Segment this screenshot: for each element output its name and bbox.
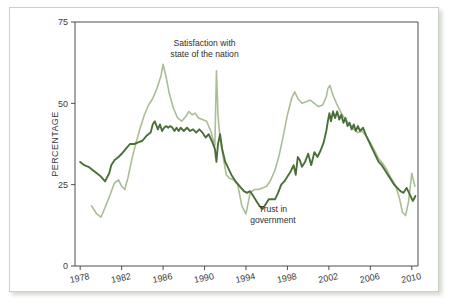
trust-label-line1: Trust in	[259, 204, 288, 214]
trust-label: Trust ingovernment	[250, 204, 296, 225]
x-tick-label-1998: 1998	[276, 271, 298, 285]
x-tick-label-2010: 2010	[400, 271, 422, 285]
x-tick-label-2002: 2002	[317, 271, 339, 285]
x-tick-label-1986: 1986	[152, 271, 174, 285]
y-tick-label-50: 50	[58, 99, 68, 109]
annotation-group: Satisfaction withstate of the nationTrus…	[170, 38, 296, 225]
axes-group: 0255075197819821986199019941998200220062…	[58, 17, 422, 285]
x-tick-label-1982: 1982	[110, 271, 132, 285]
y-tick-label-25: 25	[58, 180, 68, 190]
x-tick-label-1990: 1990	[193, 271, 215, 285]
series-line-trust	[80, 111, 415, 209]
chart-area: 0255075197819821986199019941998200220062…	[0, 0, 451, 307]
x-tick-label-2006: 2006	[359, 271, 381, 285]
satisfaction-label: Satisfaction withstate of the nation	[170, 38, 239, 59]
series-group	[80, 64, 415, 217]
y-tick-label-0: 0	[63, 261, 68, 271]
chart-svg: 0255075197819821986199019941998200220062…	[0, 0, 451, 307]
satisfaction-label-line1: Satisfaction with	[173, 38, 235, 48]
trust-label-line2: government	[250, 215, 296, 225]
x-tick-label-1994: 1994	[235, 271, 257, 285]
x-tick-label-1978: 1978	[69, 271, 91, 285]
y-axis-title: PERCENTAGE	[50, 111, 60, 176]
plot-frame	[75, 22, 418, 266]
y-tick-label-75: 75	[58, 17, 68, 27]
satisfaction-label-line2: state of the nation	[170, 49, 239, 59]
figure-root: 0255075197819821986199019941998200220062…	[0, 0, 451, 307]
